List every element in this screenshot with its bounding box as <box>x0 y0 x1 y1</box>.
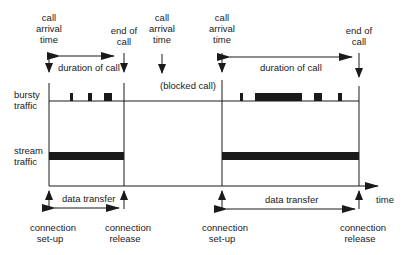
end-of-call-label-1: end of call <box>106 25 142 47</box>
end-of-call-label-2: end of call <box>341 25 377 47</box>
stream-traffic-label: stream traffic <box>14 145 43 167</box>
time-axis-label: time <box>376 194 394 205</box>
call-arrival-label-blocked: call arrival time <box>145 12 179 45</box>
bursty-traffic-label: bursty traffic <box>14 89 40 111</box>
call-arrival-label-2: call arrival time <box>205 12 239 45</box>
call-arrival-label-1: call arrival time <box>32 12 66 45</box>
duration-of-call-label-2: duration of call <box>260 62 320 73</box>
data-transfer-label-2: data transfer <box>265 194 315 205</box>
stream-bars <box>49 152 359 160</box>
connection-setup-label-2: connection set-up <box>202 222 242 244</box>
duration-of-call-label-1: duration of call <box>58 62 118 73</box>
data-transfer-label-1: data transfer <box>62 193 112 204</box>
connection-release-label-2: connection release <box>340 222 380 244</box>
bursty-pulses <box>70 93 342 101</box>
connection-setup-label-1: connection set-up <box>30 222 70 244</box>
connection-release-label-1: connection release <box>105 222 145 244</box>
blocked-call-label: (blocked call) <box>158 80 218 91</box>
